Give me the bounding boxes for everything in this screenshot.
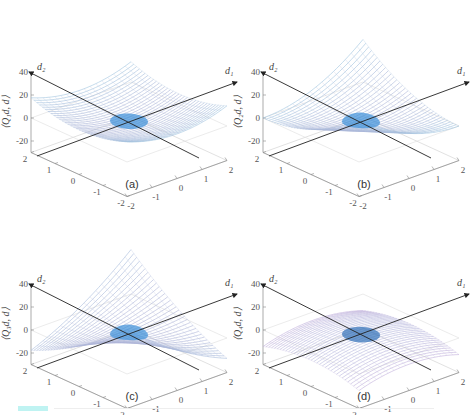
subplot-caption: (d): [344, 390, 384, 402]
x-tick-label: 0: [179, 183, 184, 193]
x-tick-label: 1: [204, 174, 209, 184]
d2-label: d₂: [269, 273, 278, 284]
z-tick-label: 0: [256, 113, 261, 123]
y-tick-label: 0: [303, 388, 308, 398]
y-tick-label: 0: [71, 388, 76, 398]
y-tick-label: 1: [279, 165, 284, 175]
d2-direction-arrow: [29, 284, 199, 370]
subplot-d: 40200-20⟨Q₄d, d⟩210-1-2-2-1012d₁d₂: [232, 212, 470, 412]
z-tick-label: 40: [19, 67, 29, 77]
z-tick-label: 20: [251, 90, 261, 100]
surface-plot: 40200-20⟨Q₄d, d⟩210-1-2-2-1012d₁d₂: [232, 212, 470, 412]
d1-label: d₁: [457, 277, 465, 288]
x-tick-label: 2: [461, 165, 466, 175]
x-tick-label: 0: [411, 183, 416, 193]
y-tick-label: 2: [23, 366, 28, 376]
x-tick-label: 0: [411, 395, 416, 405]
y-tick-label: -1: [325, 187, 333, 197]
d2-label: d₂: [37, 61, 46, 72]
z-tick-label: 20: [251, 302, 261, 312]
z-tick-label: 0: [256, 325, 261, 335]
subplot-caption: (b): [344, 178, 384, 190]
x-tick-label: -1: [152, 192, 160, 202]
z-axis-label: ⟨Q₃d, d⟩: [0, 307, 11, 341]
d2-label: d₂: [269, 61, 278, 72]
z-tick-label: -20: [16, 348, 28, 358]
z-tick-label: 20: [19, 90, 29, 100]
x-tick-label: -1: [384, 192, 392, 202]
y-tick-label: 1: [279, 377, 284, 387]
y-tick-label: 0: [71, 176, 76, 186]
surface-mesh: [31, 250, 227, 359]
y-tick-label: 2: [23, 154, 28, 164]
d2-direction-arrow: [261, 72, 431, 158]
surface-plot: 40200-20⟨Q₁d, d⟩210-1-2-2-1012d₁d₂: [0, 0, 238, 200]
y-tick-label: -1: [93, 187, 101, 197]
caption-text-fragment: [54, 408, 434, 409]
y-tick-label: 2: [255, 154, 260, 164]
z-tick-label: -20: [248, 136, 260, 146]
x-tick-label: -2: [127, 201, 135, 211]
legend-swatch: [18, 406, 48, 411]
x-tick-label: 1: [436, 174, 441, 184]
d2-label: d₂: [37, 273, 46, 284]
surface-plot: 40200-20⟨Q₂d, d⟩210-1-2-2-1012d₁d₂: [232, 0, 470, 200]
z-tick-label: 40: [19, 279, 29, 289]
z-axis-label: ⟨Q₁d, d⟩: [0, 95, 11, 129]
z-tick-label: -20: [16, 136, 28, 146]
subplot-c: 40200-20⟨Q₃d, d⟩210-1-2-2-1012d₁d₂: [0, 212, 238, 412]
z-tick-label: -20: [248, 348, 260, 358]
subplot-caption: (a): [112, 178, 152, 190]
z-tick-label: 0: [24, 325, 29, 335]
y-tick-label: -2: [349, 198, 357, 208]
z-tick-label: 40: [251, 279, 261, 289]
x-tick-label: 1: [436, 386, 441, 396]
x-tick-label: 1: [204, 386, 209, 396]
subplot-caption: (c): [112, 390, 152, 402]
surface-plot: 40200-20⟨Q₃d, d⟩210-1-2-2-1012d₁d₂: [0, 212, 238, 412]
surface-mesh: [263, 311, 459, 391]
z-tick-label: 20: [19, 302, 29, 312]
x-tick-label: 2: [461, 377, 466, 387]
d2-direction-arrow: [261, 284, 431, 370]
z-tick-label: 0: [24, 113, 29, 123]
y-tick-label: -2: [117, 198, 125, 208]
x-tick-label: 0: [179, 395, 184, 405]
subplot-b: 40200-20⟨Q₂d, d⟩210-1-2-2-1012d₁d₂: [232, 0, 470, 200]
surface-mesh: [31, 62, 227, 142]
y-tick-label: 2: [255, 366, 260, 376]
z-axis-label: ⟨Q₄d, d⟩: [232, 307, 243, 341]
cut-off-caption-line: [18, 406, 438, 412]
y-tick-label: 1: [47, 377, 52, 387]
y-tick-label: 1: [47, 165, 52, 175]
d2-direction-arrow: [29, 72, 199, 158]
z-axis-label: ⟨Q₂d, d⟩: [232, 95, 243, 129]
subplot-a: 40200-20⟨Q₁d, d⟩210-1-2-2-1012d₁d₂: [0, 0, 238, 200]
z-tick-label: 40: [251, 67, 261, 77]
y-tick-label: 0: [303, 176, 308, 186]
x-tick-label: -2: [359, 201, 367, 211]
d1-label: d₁: [457, 65, 465, 76]
